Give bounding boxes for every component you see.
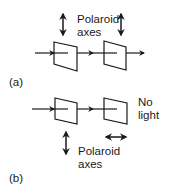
no-light-label-line1: No	[138, 96, 153, 109]
polaroid-axes-label-b-line2: axes	[78, 158, 102, 171]
polarizer-2-b	[104, 98, 127, 124]
panel-a-label: (a)	[9, 76, 23, 89]
polaroid-axes-label-a-line2: axes	[77, 26, 101, 39]
polarizer-1-b	[55, 98, 77, 124]
polaroid-axes-label-b-line1: Polaroid	[78, 145, 120, 158]
polaroid-axes-label-a-line1: Polaroid	[77, 13, 119, 26]
polarizer-2-a	[104, 41, 126, 70]
polarizer-1-a	[54, 42, 77, 71]
panel-b-label: (b)	[9, 172, 23, 185]
no-light-label-line2: light	[138, 109, 159, 122]
